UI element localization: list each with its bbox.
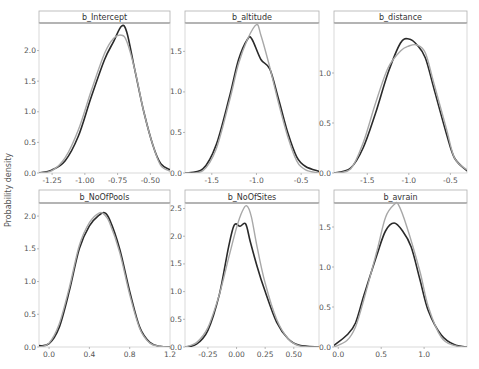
y-tick-label: 1.5 [319,223,331,232]
density-curve-light [39,35,170,173]
facet-title: b_altitude [232,13,272,22]
y-tick-label: 1.0 [170,287,182,296]
density-curve-dark [185,37,319,173]
y-tick-label: 0.5 [319,303,331,312]
density-curve-dark [334,39,467,173]
y-tick-label: 1.0 [24,107,36,116]
x-tick-label: 0.00 [228,350,245,359]
y-tick-label: 2.0 [24,212,36,221]
facet-panel-b-distance: b_distance0.00.51.0-1.5-1.0-0.5 [319,11,467,185]
x-tick-label: -1.0 [401,176,416,185]
x-tick-label: -0.50 [141,176,161,185]
facet-panel-b-intercept: b_Intercept0.00.51.01.52.0-1.25-1.00-0.7… [24,11,170,185]
y-tick-label: 1.0 [319,69,331,78]
y-tick-label: 1.0 [170,87,182,96]
density-curve-light [185,25,319,174]
y-tick-label: 1.5 [24,244,36,253]
y-tick-label: 2.0 [24,46,36,55]
x-tick-label: 0.0 [332,350,344,359]
x-tick-label: -1.0 [249,176,264,185]
x-tick-label: -1.5 [360,176,375,185]
y-tick-label: 0.5 [170,315,182,324]
x-tick-label: -0.75 [108,176,128,185]
x-tick-label: -0.5 [294,176,309,185]
density-curve-dark [39,25,170,173]
y-tick-label: 1.5 [24,77,36,86]
density-curve-light [334,44,467,173]
y-tick-label: 0.0 [170,343,182,352]
y-tick-label: 0.0 [170,169,182,178]
density-curve-dark [334,223,467,347]
y-tick-label: 0.0 [24,343,36,352]
y-tick-label: 1.5 [170,259,182,268]
x-tick-label: -0.5 [443,176,458,185]
facet-title: b_avrain [383,193,417,202]
x-tick-label: 0.50 [285,350,302,359]
x-tick-label: -1.00 [75,176,95,185]
y-tick-label: 0.0 [319,343,331,352]
plot-area [334,23,467,173]
y-tick-label: 1.0 [319,263,331,272]
y-tick-label: 1.5 [170,47,182,56]
x-tick-label: 0.4 [83,350,95,359]
y-tick-label: 2.5 [170,204,182,213]
x-tick-label: -0.25 [198,350,218,359]
facet-title: b_distance [379,13,422,22]
y-tick-label: 1.0 [24,277,36,286]
plot-area [185,23,319,173]
density-curve-dark [185,223,319,347]
facet-panel-b-avrain: b_avrain0.00.51.01.50.00.51.0 [319,190,467,359]
plot-area [185,203,319,347]
y-tick-label: 0.0 [319,169,331,178]
facet-panels: b_Intercept0.00.51.01.52.0-1.25-1.00-0.7… [24,11,467,359]
x-tick-label: -1.5 [204,176,219,185]
facet-panel-b-altitude: b_altitude0.00.51.01.5-1.5-1.0-0.5 [170,11,319,185]
y-tick-label: 0.5 [170,128,182,137]
x-tick-label: -1.25 [42,176,62,185]
facet-panel-b-noofsites: b_NoOfSites0.00.51.01.52.02.5-0.250.000.… [170,190,319,359]
y-tick-label: 0.5 [24,310,36,319]
x-tick-label: 0.5 [375,350,387,359]
facet-title: b_NoOfSites [228,193,277,202]
x-tick-label: 0.25 [257,350,274,359]
facet-panel-b-noofpools: b_NoOfPools0.00.51.01.52.00.00.40.81.2 [24,190,176,359]
y-tick-label: 0.5 [319,119,331,128]
density-facet-figure: Probability density b_Intercept0.00.51.0… [0,0,479,369]
plot-area [39,23,170,173]
density-curve-light [185,206,319,347]
y-tick-label: 0.0 [24,169,36,178]
y-tick-label: 0.5 [24,138,36,147]
x-tick-label: 1.0 [418,350,430,359]
y-tick-label: 2.0 [170,232,182,241]
facet-title: b_Intercept [82,13,127,22]
x-tick-label: 0.8 [124,350,136,359]
y-axis-label: Probability density [4,153,13,227]
facet-title: b_NoOfPools [80,193,130,202]
x-tick-label: 0.0 [43,350,55,359]
density-curve-light [39,212,170,347]
